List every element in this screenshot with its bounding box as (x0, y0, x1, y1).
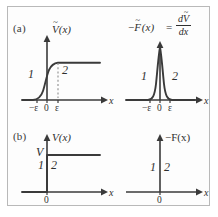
chart-b-left-graphics (22, 134, 108, 195)
chart-b-right-y-axis-label: −F(x) (165, 132, 190, 143)
chart-b-left-y-axis-label: V(x) (52, 132, 71, 143)
chart-a-right-region-2: 2 (172, 70, 178, 82)
derivative-denominator: dx (176, 27, 191, 38)
chart-b-right-ticklabel-zero: 0 (157, 196, 162, 206)
derivative-numerator: d~V (176, 14, 191, 25)
chart-a-right-y-axis-label: −~F (x) (128, 22, 154, 33)
chart-b-left-step-curve (22, 155, 100, 192)
chart-a-left-region-2: 2 (62, 64, 68, 76)
chart-a-left-x-axis-label: x (109, 96, 113, 106)
chart-a-right-derivative-fraction: d~V dx (176, 14, 191, 37)
chart-b-right-x-axis-arrow (196, 189, 203, 196)
chart-b-left-region-1: 1 (38, 159, 44, 171)
chart-b-left-x-axis-arrow (101, 189, 108, 196)
chart-a-left-y-axis-label: ~V(x) (52, 24, 71, 35)
chart-b-left-step-value-label: V (36, 146, 43, 158)
chart-a-right-x-axis-arrow (196, 97, 203, 104)
chart-a-right-ticklabel-minus-eps: −ε (142, 104, 151, 114)
chart-b-right-x-axis-label: x (204, 188, 208, 198)
chart-a-right-x-axis-label: x (204, 96, 208, 106)
figure-root: (a) (b) ~V(x) 1 2 −ε 0 ε x −~F (x) = d~V… (0, 0, 218, 217)
chart-a-right-equals-sign: = (166, 22, 172, 33)
chart-a-left-y-axis-arrow (44, 35, 51, 42)
chart-b-left-region-2: 2 (51, 159, 57, 171)
chart-b-right-delta-spike-arrow (157, 134, 164, 141)
chart-a-right-graphics (126, 41, 203, 103)
chart-a-right-region-1: 1 (141, 70, 147, 82)
chart-b-left-x-axis-label: x (109, 188, 113, 198)
chart-b-right-region-1: 1 (150, 161, 156, 173)
chart-b-right-region-2: 2 (164, 161, 170, 173)
chart-a-right-ticklabel-zero: 0 (157, 104, 162, 114)
chart-b-left-ticklabel-zero: 0 (44, 196, 49, 206)
chart-a-left-ticklabel-eps: ε (55, 104, 59, 114)
chart-a-left-x-axis-arrow (101, 97, 108, 104)
chart-b-left-y-axis-arrow (44, 134, 51, 141)
chart-a-left-ticklabel-zero: 0 (44, 104, 49, 114)
panel-b-label: (b) (13, 130, 26, 142)
chart-a-left-region-1: 1 (28, 68, 34, 80)
chart-a-right-ticklabel-eps: ε (168, 104, 172, 114)
chart-a-left-ticklabel-minus-eps: −ε (29, 104, 38, 114)
panel-a-label: (a) (13, 22, 26, 34)
